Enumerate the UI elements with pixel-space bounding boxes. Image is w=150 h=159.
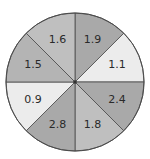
sector-label-2: 1.1 (108, 58, 126, 71)
number-wheel: 1.9 1.1 2.4 1.8 2.8 0.9 1.5 1.6 (0, 0, 150, 159)
sector-label-1: 1.9 (84, 33, 102, 46)
wheel-center-point (73, 80, 77, 84)
sector-label-5: 2.8 (49, 118, 67, 131)
sector-label-4: 1.8 (84, 118, 102, 131)
sector-label-3: 2.4 (108, 93, 126, 106)
sector-label-7: 1.5 (24, 58, 42, 71)
sector-label-6: 0.9 (24, 93, 42, 106)
sector-label-8: 1.6 (49, 33, 67, 46)
